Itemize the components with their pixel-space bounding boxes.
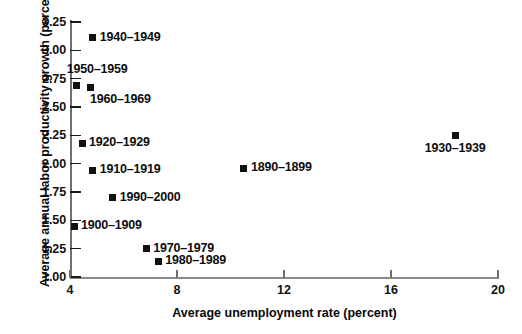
data-point-label: 1940–1949 (100, 30, 161, 44)
data-point-marker[interactable] (87, 84, 94, 91)
data-point-label: 1960–1969 (90, 92, 151, 106)
data-point-label: 1950–1959 (67, 62, 128, 76)
y-axis-title: Average annual labor productivity growth… (38, 0, 52, 287)
data-point-label: 1930–1939 (425, 141, 486, 155)
data-point-label: 1910–1919 (100, 162, 161, 176)
data-point-marker[interactable] (71, 223, 78, 230)
x-tick-label: 8 (157, 283, 197, 297)
x-tick-label: 4 (50, 283, 90, 297)
data-point-label: 1980–1989 (165, 253, 226, 267)
data-point-marker[interactable] (143, 245, 150, 252)
data-point-marker[interactable] (73, 82, 80, 89)
data-point-label: 1920–1929 (89, 135, 150, 149)
x-tick-label: 16 (371, 283, 411, 297)
x-tick-label: 20 (478, 283, 518, 297)
data-point-label: 1900–1909 (81, 218, 142, 232)
scatter-plot-figure: 1.001.251.501.752.002.252.502.753.003.25… (0, 0, 522, 334)
data-point-label: 1890–1899 (251, 160, 312, 174)
data-point-marker[interactable] (155, 258, 162, 265)
data-point-marker[interactable] (79, 140, 86, 147)
x-axis-title: Average unemployment rate (percent) (70, 306, 499, 320)
data-point-marker[interactable] (89, 167, 96, 174)
data-point-marker[interactable] (240, 165, 247, 172)
data-point-marker[interactable] (89, 34, 96, 41)
data-point-label: 1990–2000 (120, 190, 181, 204)
x-tick-label: 12 (264, 283, 304, 297)
data-point-marker[interactable] (109, 194, 116, 201)
data-point-marker[interactable] (452, 132, 459, 139)
